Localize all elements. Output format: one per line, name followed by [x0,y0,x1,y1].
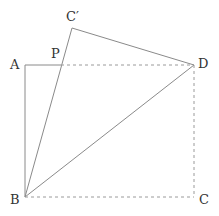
label-P: P [51,47,60,60]
label-A: A [10,58,19,71]
segment-BCprime [25,28,72,197]
label-D: D [198,57,208,70]
diagram-svg [0,0,219,216]
label-B: B [10,193,20,206]
label-C: C [199,193,209,206]
label-C-prime: C′ [66,10,79,23]
segment-BD [25,65,194,197]
segment-CprimeD [72,28,194,65]
diagram-canvas: A P D C′ B C [0,0,219,216]
